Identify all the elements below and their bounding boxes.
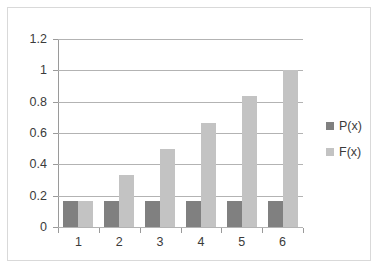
x-axis-tick xyxy=(181,228,182,233)
y-axis-tick-label: 0.6 xyxy=(30,127,47,140)
bar-fx-2 xyxy=(119,175,134,227)
bar-px-2 xyxy=(104,201,119,227)
y-axis-tick-label: 1.2 xyxy=(30,33,47,46)
y-axis-tick-label: 0 xyxy=(40,221,47,234)
x-axis-tick xyxy=(58,228,59,233)
y-axis-tick-label: 1 xyxy=(40,64,47,77)
bar-px-1 xyxy=(63,201,78,227)
bar-group xyxy=(140,39,181,227)
legend-entry-fx[interactable]: F(x) xyxy=(326,145,362,159)
x-axis-tick-label: 2 xyxy=(99,236,140,249)
y-axis-tick-label: 0.2 xyxy=(30,190,47,203)
bar-px-5 xyxy=(227,201,242,227)
chart-legend: P(x)F(x) xyxy=(326,119,362,171)
bar-px-3 xyxy=(145,201,160,227)
bar-px-4 xyxy=(186,201,201,227)
x-axis-tick-label: 3 xyxy=(140,236,181,249)
bar-group xyxy=(221,39,262,227)
bar-fx-3 xyxy=(160,149,175,227)
x-axis-tick xyxy=(221,228,222,233)
x-axis-tick-label: 4 xyxy=(181,236,222,249)
bar-group xyxy=(262,39,303,227)
chart-frame: 00.20.40.60.811.2 123456 P(x)F(x) xyxy=(7,7,371,261)
x-axis-tick xyxy=(140,228,141,233)
bar-group xyxy=(99,39,140,227)
bar-fx-5 xyxy=(242,96,257,227)
x-axis-ticks xyxy=(58,228,303,234)
legend-entry-px[interactable]: P(x) xyxy=(326,119,362,133)
legend-swatch-icon xyxy=(326,122,334,130)
x-axis-labels: 123456 xyxy=(58,236,303,254)
x-axis-tick-label: 1 xyxy=(58,236,99,249)
x-axis-tick xyxy=(303,228,304,233)
bar-fx-6 xyxy=(283,70,298,227)
x-axis-tick-label: 6 xyxy=(262,236,303,249)
y-axis-tick-label: 0.4 xyxy=(30,158,47,171)
bars-layer xyxy=(58,39,303,227)
legend-label: F(x) xyxy=(339,146,361,159)
bar-px-6 xyxy=(268,201,283,227)
x-axis-tick xyxy=(99,228,100,233)
legend-swatch-icon xyxy=(326,148,334,156)
x-axis-tick xyxy=(262,228,263,233)
bar-group xyxy=(58,39,99,227)
bar-fx-4 xyxy=(201,123,216,227)
bar-group xyxy=(181,39,222,227)
legend-label: P(x) xyxy=(339,120,362,133)
x-axis-tick-label: 5 xyxy=(221,236,262,249)
bar-fx-1 xyxy=(78,201,93,227)
y-axis-tick-label: 0.8 xyxy=(30,96,47,109)
